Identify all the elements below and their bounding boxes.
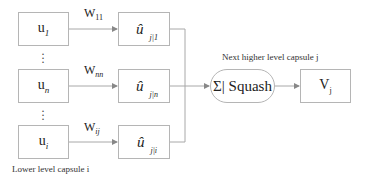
sum-squash-node: Σ| Squash [210, 69, 275, 103]
prediction-u-hat-jn: ûj|n [118, 69, 170, 103]
capsule-subscript: i [46, 141, 49, 151]
lower-capsule-ui: ui [18, 125, 69, 159]
weight-wij: Wij [84, 120, 100, 136]
capsule-subscript: n [45, 85, 50, 95]
prediction-u-hat-ji: ûj|i [118, 125, 170, 159]
capsule-label: u [38, 77, 45, 92]
capsule-label: u [38, 20, 45, 35]
capsule-subscript: 1 [45, 28, 50, 38]
output-capsule-vj: Vj [300, 69, 351, 103]
weight-w11: W11 [84, 6, 103, 22]
prediction-u-hat-j1: ûj|1 [118, 12, 170, 46]
weight-wnn: Wnn [84, 63, 103, 79]
ellipsis-2: ··· [38, 109, 48, 121]
ellipsis-1: ··· [38, 52, 48, 64]
lower-capsule-un: un [18, 69, 69, 103]
capsule-label: u [39, 133, 46, 148]
higher-level-caption: Next higher level capsule j [222, 52, 318, 62]
lower-level-caption: Lower level capsule i [12, 164, 89, 174]
lower-capsule-u1: u1 [18, 12, 69, 46]
